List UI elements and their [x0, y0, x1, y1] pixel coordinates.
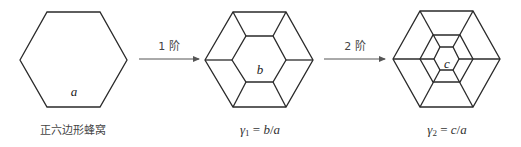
regular-hexagon: a — [20, 12, 127, 107]
caption-regular-hexagon: 正六边形蜂窝 — [40, 123, 106, 137]
cell-label-a: a — [71, 84, 78, 99]
arrow-label-first-order: 1 阶 — [158, 39, 180, 53]
hierarchical-honeycomb-diagram: a 正六边形蜂窝 1 阶 b γ1 = b/a 2 阶 c γ2 = c/a — [0, 0, 521, 147]
caption-gamma-1: γ1 = b/a — [240, 122, 281, 138]
second-order-hexagon: c — [393, 11, 500, 107]
arrow-label-second-order: 2 阶 — [344, 39, 366, 53]
arrow-second-order: 2 阶 — [324, 39, 385, 59]
caption-gamma-2: γ2 = c/a — [427, 122, 467, 138]
arrow-first-order: 1 阶 — [139, 39, 199, 59]
cell-label-b: b — [257, 62, 264, 77]
first-order-hexagon: b — [205, 12, 313, 107]
cell-label-c: c — [444, 56, 450, 71]
